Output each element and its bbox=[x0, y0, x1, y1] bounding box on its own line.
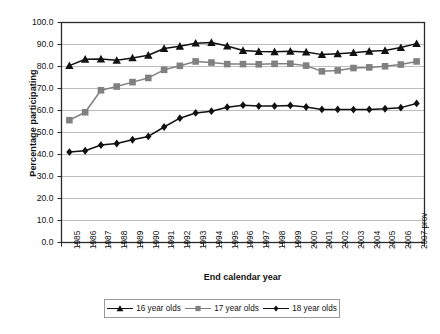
x-tick-label: 1988 bbox=[120, 230, 129, 248]
y-tick-label: 60.0 bbox=[12, 105, 54, 115]
data-point-marker bbox=[98, 87, 105, 94]
x-tick-label: 2000 bbox=[310, 230, 319, 248]
y-tick-label: 90.0 bbox=[12, 39, 54, 49]
data-point-marker bbox=[287, 102, 293, 110]
x-tick-label: 2001 bbox=[325, 230, 334, 248]
legend-marker-icon bbox=[263, 304, 289, 313]
data-point-marker bbox=[117, 305, 124, 311]
x-tick-label: 2003 bbox=[357, 230, 366, 248]
series-3 bbox=[66, 100, 419, 156]
x-tick-label: 1985 bbox=[73, 230, 82, 248]
x-tick-label: 1992 bbox=[183, 230, 192, 248]
data-point-marker bbox=[177, 114, 183, 122]
participation-line-chart: Percentage participating End calendar ye… bbox=[0, 0, 440, 334]
series-2 bbox=[66, 58, 420, 123]
y-tick-label: 10.0 bbox=[12, 215, 54, 225]
x-tick-label: 1996 bbox=[246, 230, 255, 248]
data-point-marker bbox=[398, 61, 405, 68]
data-point-marker bbox=[335, 106, 341, 114]
data-point-marker bbox=[113, 83, 120, 90]
data-point-marker bbox=[161, 123, 167, 131]
data-point-marker bbox=[271, 61, 278, 68]
data-point-marker bbox=[208, 107, 214, 115]
data-point-marker bbox=[382, 63, 389, 70]
y-tick-label: 80.0 bbox=[12, 61, 54, 71]
data-point-marker bbox=[66, 117, 73, 124]
data-point-marker bbox=[177, 63, 184, 70]
x-tick-label: 1990 bbox=[152, 230, 161, 248]
data-point-marker bbox=[240, 61, 247, 68]
legend-marker-icon bbox=[185, 304, 211, 313]
x-tick-label: 1986 bbox=[89, 230, 98, 248]
data-point-marker bbox=[82, 109, 89, 116]
x-tick-label: 1999 bbox=[294, 230, 303, 248]
y-tick-label: 20.0 bbox=[12, 193, 54, 203]
data-point-marker bbox=[413, 100, 419, 108]
x-tick-label: 2005 bbox=[388, 230, 397, 248]
data-point-marker bbox=[161, 67, 168, 74]
data-point-marker bbox=[192, 58, 199, 65]
chart-legend: 16 year olds17 year olds18 year olds bbox=[104, 299, 340, 318]
data-point-marker bbox=[287, 60, 294, 67]
data-point-marker bbox=[240, 101, 246, 109]
legend-entry-3[interactable]: 18 year olds bbox=[263, 304, 337, 313]
legend-marker-icon bbox=[107, 304, 133, 313]
x-tick-label: 1993 bbox=[199, 230, 208, 248]
data-point-marker bbox=[413, 58, 420, 65]
data-point-marker bbox=[382, 105, 388, 113]
data-point-marker bbox=[65, 61, 73, 69]
x-tick-label: 1995 bbox=[231, 230, 240, 248]
legend-label: 16 year olds bbox=[136, 304, 181, 313]
x-tick-label: 1987 bbox=[104, 230, 113, 248]
data-point-marker bbox=[129, 136, 135, 144]
data-point-marker bbox=[224, 103, 230, 111]
data-point-marker bbox=[334, 67, 341, 74]
x-tick-label: 2002 bbox=[341, 230, 350, 248]
y-tick-label: 40.0 bbox=[12, 149, 54, 159]
data-point-marker bbox=[412, 39, 420, 47]
y-tick-label: 30.0 bbox=[12, 171, 54, 181]
legend-entry-2[interactable]: 17 year olds bbox=[185, 304, 259, 313]
legend-entry-1[interactable]: 16 year olds bbox=[107, 304, 181, 313]
x-tick-label: 2004 bbox=[373, 230, 382, 248]
series-line bbox=[69, 61, 416, 120]
x-tick-label: 2006 bbox=[404, 230, 413, 248]
data-point-marker bbox=[114, 140, 120, 148]
x-tick-label: 1991 bbox=[167, 230, 176, 248]
data-point-marker bbox=[319, 68, 326, 75]
data-point-marker bbox=[145, 133, 151, 141]
plot-area bbox=[0, 0, 440, 334]
data-point-marker bbox=[98, 141, 104, 149]
x-tick-label: 1998 bbox=[278, 230, 287, 248]
data-point-marker bbox=[196, 306, 201, 311]
data-point-marker bbox=[208, 59, 215, 66]
data-point-marker bbox=[271, 102, 277, 110]
data-point-marker bbox=[145, 75, 152, 82]
data-point-marker bbox=[350, 65, 357, 72]
x-tick-label: 1989 bbox=[136, 230, 145, 248]
data-point-marker bbox=[366, 64, 373, 71]
legend-label: 17 year olds bbox=[214, 304, 259, 313]
x-tick-label: 1994 bbox=[215, 230, 224, 248]
x-tick-label: 2007 prov bbox=[420, 212, 429, 248]
data-point-marker bbox=[144, 51, 152, 59]
data-point-marker bbox=[255, 61, 262, 68]
data-point-marker bbox=[303, 103, 309, 111]
data-point-marker bbox=[224, 61, 231, 68]
data-point-marker bbox=[319, 106, 325, 114]
y-tick-label: 100.0 bbox=[12, 17, 54, 27]
data-point-marker bbox=[366, 106, 372, 114]
data-point-marker bbox=[303, 62, 310, 69]
y-tick-label: 70.0 bbox=[12, 83, 54, 93]
data-point-marker bbox=[256, 102, 262, 110]
data-point-marker bbox=[350, 106, 356, 114]
data-point-marker bbox=[274, 305, 279, 311]
data-point-marker bbox=[82, 147, 88, 155]
data-point-marker bbox=[129, 79, 136, 86]
x-tick-label: 1997 bbox=[262, 230, 271, 248]
y-tick-label: 50.0 bbox=[12, 127, 54, 137]
y-tick-label: 0.0 bbox=[12, 237, 54, 247]
legend-label: 18 year olds bbox=[292, 304, 337, 313]
